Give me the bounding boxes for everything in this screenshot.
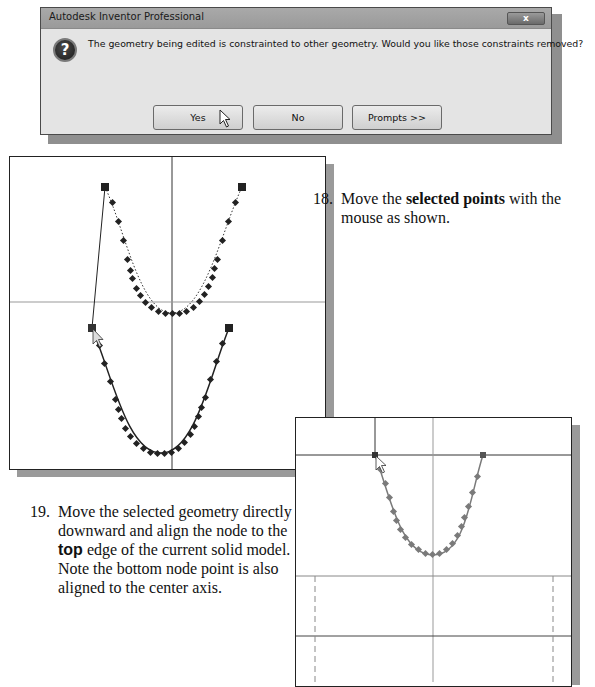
aligned-spline-diamonds (377, 466, 481, 558)
aligned-right-node (480, 452, 486, 458)
step-19-instruction: 19. Move the selected geometry directly … (30, 502, 292, 597)
align-cursor-icon (376, 456, 386, 473)
top-emphasis: top (58, 541, 83, 558)
